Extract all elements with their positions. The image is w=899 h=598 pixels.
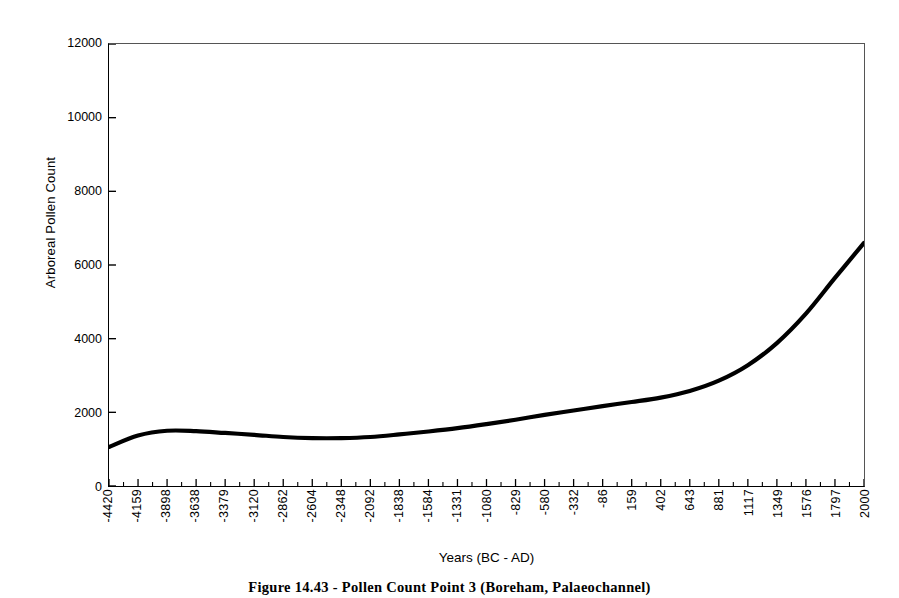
x-axis-tick-label: 1797 (829, 489, 843, 549)
y-axis-tick-label: 6000 (44, 259, 102, 271)
y-axis-tick-labels: 020004000600080001000012000 (44, 43, 102, 487)
y-axis-tick-label: 10000 (44, 111, 102, 123)
x-axis-tick-label: 159 (625, 489, 639, 549)
x-axis-tick-label-text: -4159 (130, 489, 144, 522)
x-axis-tick-label-text: -86 (596, 489, 610, 508)
x-axis-tick-label: -1080 (480, 489, 494, 549)
x-axis-tick-label: -4159 (130, 489, 144, 549)
x-axis-tick-label-text: 1576 (800, 489, 814, 518)
x-axis-tick-label-text: 1349 (771, 489, 785, 518)
x-axis-tick-label: 402 (654, 489, 668, 549)
x-axis-tick-label-text: -580 (538, 489, 552, 515)
x-axis-tick-label-text: -3379 (217, 489, 231, 522)
x-axis-tick-label: -4420 (101, 489, 115, 549)
x-axis-tick-label: -1838 (392, 489, 406, 549)
x-axis-tick-label: -1584 (421, 489, 435, 549)
x-axis-tick-label: -3638 (188, 489, 202, 549)
plot-area (108, 43, 865, 487)
x-axis-tick-label: -829 (509, 489, 523, 549)
x-axis-tick-label: -3379 (217, 489, 231, 549)
x-axis-tick-label-text: -332 (567, 489, 581, 515)
x-axis-tick-labels: -4420-4159-3898-3638-3379-3120-2862-2604… (108, 487, 865, 549)
y-axis-tick-label: 12000 (44, 37, 102, 49)
data-series-line (109, 243, 864, 447)
y-axis-tick-label: 2000 (44, 407, 102, 419)
x-axis-tick-label: 2000 (858, 489, 872, 549)
x-axis-tick-label-text: -3120 (247, 489, 261, 522)
x-axis-tick-label-text: -2604 (305, 489, 319, 522)
x-axis-tick-label: -2348 (334, 489, 348, 549)
x-axis-tick-label-text: -1838 (392, 489, 406, 522)
x-axis-tick-label-text: -1584 (421, 489, 435, 522)
x-axis-tick-label-text: 1117 (742, 489, 756, 516)
x-axis-tick-label: 643 (683, 489, 697, 549)
x-axis-tick-label: -2604 (305, 489, 319, 549)
x-axis-tick-label-text: 881 (712, 489, 726, 511)
x-axis-tick-label-text: -3638 (188, 489, 202, 522)
x-axis-tick-label-text: -4420 (101, 489, 115, 522)
x-axis-tick-label: 1349 (771, 489, 785, 549)
x-axis-tick-label-text: 1797 (829, 489, 843, 518)
x-axis-tick-label: -2862 (276, 489, 290, 549)
x-axis-tick-label-text: 643 (683, 489, 697, 511)
x-axis-tick-label-text: -829 (509, 489, 523, 515)
x-axis-tick-label: -332 (567, 489, 581, 549)
x-axis-tick-label-text: 159 (625, 489, 639, 511)
x-axis-tick-label-text: -1331 (450, 489, 464, 522)
x-axis-tick-label-text: -1080 (480, 489, 494, 522)
x-axis-tick-label-text: -2348 (334, 489, 348, 522)
x-axis-tick-label: -1331 (450, 489, 464, 549)
y-axis-tick-label: 0 (44, 481, 102, 493)
x-axis-tick-label: -86 (596, 489, 610, 549)
x-axis-tick-label-text: -2862 (276, 489, 290, 522)
y-axis-ticks (109, 44, 116, 486)
y-axis-tick-label: 4000 (44, 333, 102, 345)
x-axis-tick-label-text: 402 (654, 489, 668, 511)
x-axis-ticks (109, 479, 864, 486)
x-axis-tick-label-text: 2000 (858, 489, 872, 518)
x-axis-tick-label: -580 (538, 489, 552, 549)
x-axis-title: Years (BC - AD) (108, 550, 865, 565)
figure-caption: Figure 14.43 - Pollen Count Point 3 (Bor… (0, 579, 899, 598)
x-axis-tick-label-text: -2092 (363, 489, 377, 522)
x-axis-tick-label: -2092 (363, 489, 377, 549)
x-axis-tick-label: -3120 (247, 489, 261, 549)
x-axis-tick-label-text: -3898 (159, 489, 173, 522)
x-axis-tick-label: 1576 (800, 489, 814, 549)
figure-container: Arboreal Pollen Count 020004000600080001… (0, 0, 899, 598)
x-axis-tick-label: 1117 (742, 489, 756, 549)
pollen-count-line-chart (109, 44, 864, 486)
x-axis-tick-label: -3898 (159, 489, 173, 549)
y-axis-tick-label: 8000 (44, 185, 102, 197)
x-axis-tick-label: 881 (712, 489, 726, 549)
